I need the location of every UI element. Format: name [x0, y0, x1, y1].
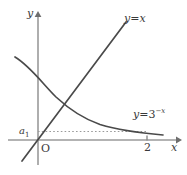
graph-canvas: [0, 0, 187, 175]
annotation-curve-y-equals-3-pow-minus-x: y=3−x: [133, 108, 165, 120]
y-axis-arrow-icon: [35, 11, 42, 17]
exp-exponent: −x: [155, 107, 165, 115]
x-tick-label-2: 2: [144, 142, 151, 153]
yx-expression: x: [139, 12, 145, 25]
a1-subscript: 1: [25, 131, 29, 139]
y-axis-label: y: [27, 8, 33, 19]
annotation-line-y-equals-x: y=x: [124, 13, 146, 24]
origin-label: O: [41, 143, 50, 154]
figure-container: y x O a1 2 y=x y=3−x: [0, 0, 187, 175]
x-axis-label: x: [171, 142, 177, 153]
y-value-a1-label: a1: [19, 126, 29, 139]
